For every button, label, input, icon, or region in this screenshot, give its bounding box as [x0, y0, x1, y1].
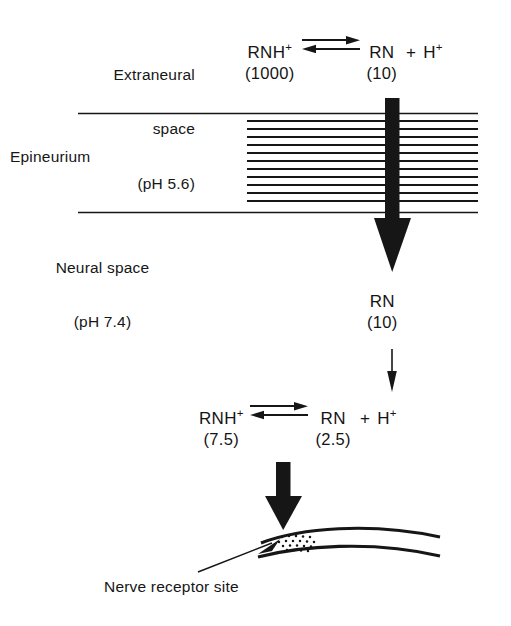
equation-extraneural: RNH+ (1000) RN (10) + H+: [245, 38, 443, 83]
rn-neural-count: (10): [367, 313, 398, 332]
equation-top-plus: +: [406, 43, 416, 63]
extraneural-space-label: Extraneural space (pH 5.6): [10, 29, 195, 230]
neural-ph: (pH 7.4): [10, 313, 195, 331]
equation-top-right-species: RN (10): [367, 43, 398, 83]
extraneural-ph: (pH 5.6): [10, 175, 195, 193]
extraneural-line1: Extraneural: [10, 66, 195, 84]
equilibrium-arrows-top: [302, 34, 360, 54]
equation-bottom-left-charge: +: [237, 407, 244, 419]
nerve-membrane: [258, 528, 440, 557]
rn-neural-formula: RN: [367, 292, 398, 312]
equation-bottom-right-formula: RN: [315, 409, 350, 429]
equation-top-left-charge: +: [285, 41, 292, 53]
equation-top-proton: H+: [423, 41, 442, 63]
equation-top-left-formula: RNH+: [245, 41, 295, 63]
receptor-site-stipple: [278, 535, 316, 553]
equation-neural: RNH+ (7.5) RN (2.5) + H+: [199, 404, 396, 449]
equation-top-proton-formula: H+: [423, 41, 442, 63]
equation-bottom-proton-formula: H+: [377, 407, 396, 429]
neural-line1: Neural space: [10, 259, 195, 277]
equation-bottom-proton: H+: [377, 407, 396, 429]
equation-bottom-right-species: RN (2.5): [315, 409, 350, 449]
diffusion-diagram: Extraneural space (pH 5.6) Epineurium Ne…: [0, 0, 511, 626]
equilibrium-arrows-bottom: [250, 400, 308, 420]
neural-space-label: Neural space (pH 7.4): [10, 222, 195, 368]
equation-bottom-right-count: (2.5): [315, 430, 350, 449]
equation-top-right-formula: RN: [367, 43, 398, 63]
diffusion-arrow-through-epineurium: [374, 98, 411, 272]
equation-bottom-left-count: (7.5): [199, 430, 243, 449]
nerve-membrane-inner-curve: [258, 546, 440, 557]
nerve-receptor-site-caption: Nerve receptor site: [104, 578, 239, 596]
equation-top-proton-charge: +: [436, 41, 443, 53]
rn-descent-arrow: [387, 349, 397, 392]
epineurium-label: Epineurium: [10, 148, 195, 166]
extraneural-line2: space: [10, 120, 195, 138]
epineurium-hatching: [247, 121, 478, 201]
equation-bottom-left-species: RNH+ (7.5): [199, 407, 243, 449]
equation-top-right-count: (10): [367, 64, 398, 83]
receptor-caption-leader: [198, 539, 280, 572]
equation-bottom-left-formula: RNH+: [199, 407, 243, 429]
equation-top-left-species: RNH+ (1000): [245, 41, 295, 83]
equation-bottom-proton-charge: +: [390, 407, 397, 419]
receptor-binding-arrow: [265, 462, 302, 530]
rn-neural-species: RN (10): [367, 292, 398, 332]
equation-top-left-count: (1000): [245, 64, 295, 83]
equation-bottom-plus: +: [360, 409, 370, 429]
nerve-membrane-outer-curve: [261, 528, 440, 543]
